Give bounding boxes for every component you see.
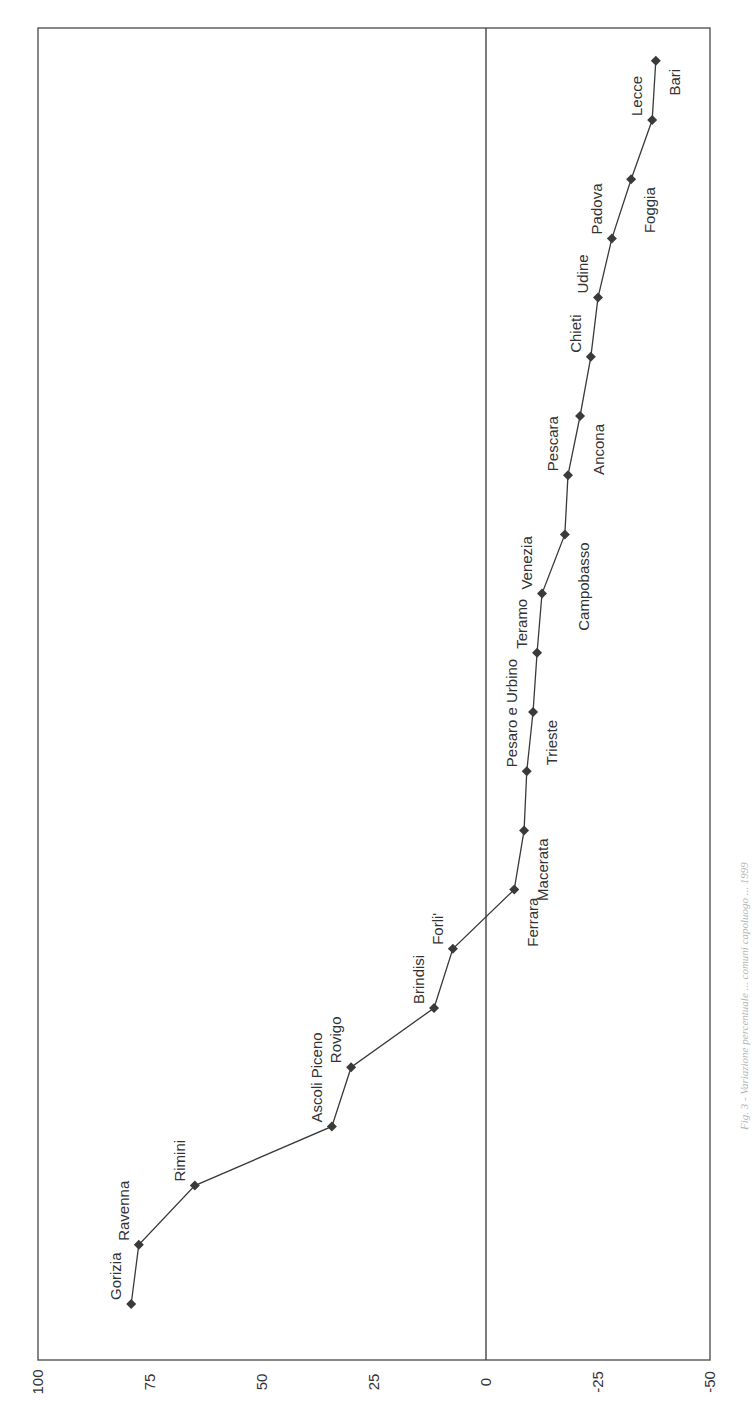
point-label: Bari [666,69,683,96]
point-label: Chieti [567,314,584,352]
diamond-marker-icon [126,1299,136,1309]
point-label: Lecce [628,76,645,116]
point-label: Rovigo [327,1016,344,1063]
point-label: Forli' [429,913,446,945]
point-label: Venezia [518,536,535,590]
tick-label: 75 [141,1374,158,1391]
point-labels: GoriziaRavennaRiminiAscoli PicenoRovigoB… [107,69,683,1300]
rotated-line-chart: 1007550250-25-50 GoriziaRavennaRiminiAsc… [0,0,756,1404]
plot-border [38,28,710,1360]
diamond-marker-icon [537,589,547,599]
tick-label: -50 [701,1371,718,1393]
diamond-marker-icon [560,529,570,539]
tick-label: 50 [253,1374,270,1391]
point-label: Foggia [641,187,658,234]
value-axis-ticks: 1007550250-25-50 [29,1369,718,1394]
diamond-marker-icon [528,707,538,717]
point-label: Macerata [534,838,551,901]
point-label: Pesaro e Urbino [503,659,520,767]
point-label: Trieste [543,720,560,765]
tick-label: 25 [365,1374,382,1391]
point-label: Pescara [544,416,561,472]
point-label: Brindisi [410,955,427,1004]
point-label: Ravenna [115,1180,132,1241]
diamond-marker-icon [593,293,603,303]
diamond-marker-icon [522,766,532,776]
point-label: Campobasso [575,542,592,630]
diamond-marker-icon [626,174,636,184]
point-label: Ascoli Piceno [308,1032,325,1122]
diamond-marker-icon [586,352,596,362]
tick-label: 100 [29,1369,46,1394]
tick-label: -25 [589,1371,606,1393]
point-label: Gorizia [107,1252,124,1300]
point-label: Ancona [590,423,607,475]
diamond-marker-icon [651,56,661,66]
diamond-marker-icon [519,825,529,835]
figure-caption: Fig. 3 - Variazione percentuale ... comu… [738,862,750,1131]
data-points [126,56,661,1309]
series-line [131,61,656,1304]
plot-frame [38,28,710,1360]
diamond-marker-icon [532,648,542,658]
caption-text: Fig. 3 - Variazione percentuale ... comu… [738,862,750,1131]
diamond-marker-icon [327,1121,337,1131]
diamond-marker-icon [647,115,657,125]
tick-label: 0 [477,1378,494,1386]
point-label: Ferrara [524,897,541,947]
point-label: Padova [588,183,605,235]
diamond-marker-icon [575,411,585,421]
point-label: Teramo [513,599,530,649]
point-label: Udine [574,254,591,293]
diamond-marker-icon [563,470,573,480]
diamond-marker-icon [607,233,617,243]
point-label: Rimini [171,1140,188,1182]
data-series-line [131,61,656,1304]
diamond-marker-icon [346,1062,356,1072]
diamond-marker-icon [429,1003,439,1013]
